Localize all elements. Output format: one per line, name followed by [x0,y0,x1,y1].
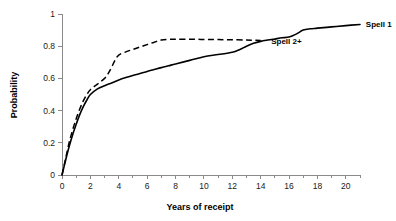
series-line-spell-1 [62,24,360,175]
x-tick-label: 16 [284,181,294,191]
line-chart: 00.20.40.60.8102468101214161820 Spell 1S… [0,0,396,221]
chart-figure: 00.20.40.60.8102468101214161820 Spell 1S… [0,0,396,221]
x-tick-label: 14 [256,181,266,191]
x-axis-title: Years of receipt [166,202,233,212]
x-tick-label: 2 [88,181,93,191]
x-tick-label: 20 [341,181,351,191]
tick-labels-group: 00.20.40.60.8102468101214161820 [43,9,351,191]
y-tick-label: 1 [50,9,55,19]
y-tick-label: 0.2 [43,138,55,148]
axes-group [62,14,360,175]
series-label-2: Spell 2+ [271,37,302,46]
y-tick-label: 0.6 [43,73,55,83]
x-tick-label: 0 [60,181,65,191]
y-tick-label: 0.4 [43,106,55,116]
y-tick-label: 0.8 [43,41,55,51]
x-tick-label: 4 [116,181,121,191]
x-tick-label: 10 [199,181,209,191]
y-tick-label: 0 [50,170,55,180]
x-tick-label: 18 [313,181,323,191]
y-axis-title: Probability [9,72,19,119]
series-label-1: Spell 1 [366,20,392,29]
x-tick-label: 12 [228,181,238,191]
x-tick-label: 6 [145,181,150,191]
series-group [62,24,360,175]
series-labels-group: Spell 1Spell 2+ [271,20,392,45]
series-line-spell-2 [62,39,261,175]
x-tick-label: 8 [173,181,178,191]
